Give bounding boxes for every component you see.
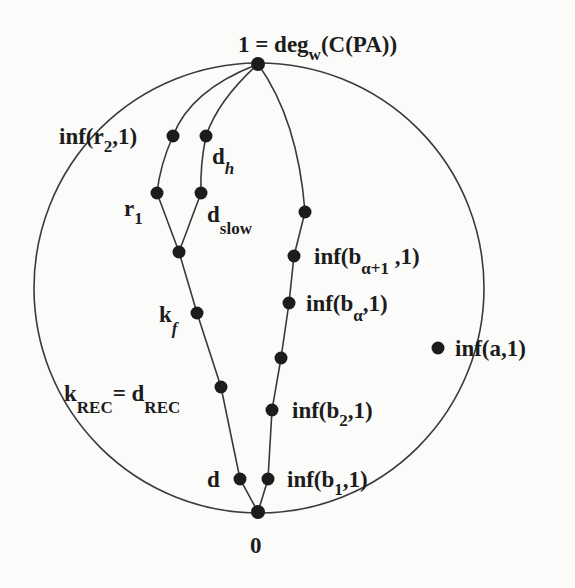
- label-k-rec: kREC= dREC: [64, 381, 180, 417]
- node-k-rec: [215, 381, 228, 394]
- label-d: d: [207, 467, 220, 492]
- edge-top-b-chain: [258, 64, 305, 212]
- node-inf-b-alpha: [283, 297, 296, 310]
- node-d-h: [200, 130, 213, 143]
- node-b-top: [299, 206, 312, 219]
- nodes: [151, 57, 445, 519]
- node-k-f: [191, 307, 204, 320]
- node-d: [234, 473, 247, 486]
- node-inf-r2: [167, 130, 180, 143]
- edge-d-slow-junction: [179, 193, 201, 252]
- diagram-canvas: 1 = degw(C(PA)) 0 inf(r2,1) dh r1 dslow …: [0, 0, 575, 588]
- node-inf-b-alpha-plus-1: [288, 250, 301, 263]
- edge-r1-junction: [157, 193, 179, 252]
- label-d-h: dh: [212, 144, 234, 178]
- label-k-f: kf: [159, 302, 180, 338]
- label-inf-b-alpha-plus-1: inf(bα+1 ,1): [314, 244, 420, 278]
- node-junction: [173, 246, 186, 259]
- node-inf-b2: [266, 404, 279, 417]
- label-inf-r2: inf(r2,1): [59, 124, 137, 156]
- edge-d-h-d-slow: [201, 136, 206, 193]
- node-b-mid: [275, 352, 288, 365]
- node-inf-b1: [262, 473, 275, 486]
- node-r1: [151, 187, 164, 200]
- label-inf-b1: inf(b1,1): [287, 467, 368, 499]
- edge-inf-r2-r1: [157, 136, 173, 193]
- node-top: [251, 57, 265, 71]
- label-bottom: 0: [250, 533, 262, 558]
- node-d-slow: [195, 187, 208, 200]
- node-bottom: [251, 505, 265, 519]
- label-inf-a: inf(a,1): [455, 336, 526, 361]
- label-inf-b-alpha: inf(bα,1): [306, 291, 388, 325]
- label-r1: r1: [124, 196, 143, 228]
- label-d-slow: dslow: [207, 202, 253, 238]
- node-inf-a: [432, 342, 445, 355]
- lattice-diagram: 1 = degw(C(PA)) 0 inf(r2,1) dh r1 dslow …: [0, 0, 575, 588]
- label-inf-b2: inf(b2,1): [292, 398, 373, 430]
